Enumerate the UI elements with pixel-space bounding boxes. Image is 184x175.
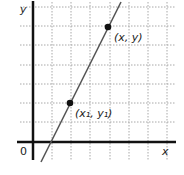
point-x1-y1 [67,100,74,107]
y-axis-label: y [20,3,27,16]
point-x-y [105,24,112,31]
coordinate-plane [0,0,184,175]
point-label-x-y: (x, y) [114,31,143,44]
grid [20,2,176,160]
x-axis-label: x [162,145,169,158]
point-label-x1-y1: (x₁, y₁) [75,107,112,120]
origin-label: 0 [20,145,27,158]
